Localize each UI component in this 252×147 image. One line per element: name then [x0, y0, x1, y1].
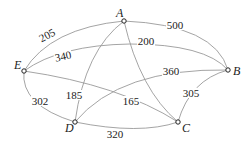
- svg-text:500: 500: [167, 19, 184, 31]
- weight-label-E-D: 302: [31, 95, 49, 107]
- node-label-B: B: [233, 64, 241, 78]
- node-B: [226, 68, 230, 72]
- weight-label-D-B: 360: [162, 65, 180, 77]
- edge-D-C: [75, 122, 178, 129]
- node-C: [176, 120, 180, 124]
- node-label-D: D: [64, 121, 74, 135]
- node-label-E: E: [13, 58, 22, 72]
- svg-text:360: 360: [163, 65, 180, 77]
- node-label-A: A: [115, 6, 124, 20]
- graph-svg: 205 500 340 200 185 360 165 302 320 305: [0, 0, 252, 147]
- weight-label-E-B: 340: [53, 48, 73, 63]
- weight-label-A-D: 185: [65, 89, 83, 101]
- node-label-C: C: [182, 121, 191, 135]
- svg-text:340: 340: [54, 48, 73, 63]
- svg-text:185: 185: [66, 89, 83, 101]
- weight-label-A-B: 500: [166, 19, 184, 31]
- weight-label-A-C: 200: [137, 35, 155, 47]
- weighted-graph-diagram: 205 500 340 200 185 360 165 302 320 305: [0, 0, 252, 147]
- weight-label-D-C: 320: [106, 128, 124, 140]
- svg-text:320: 320: [107, 128, 124, 140]
- weight-label-E-C: 165: [122, 95, 140, 107]
- edge-D-B: [75, 70, 228, 122]
- svg-text:305: 305: [183, 87, 200, 99]
- svg-text:200: 200: [138, 35, 155, 47]
- edge-A-D: [75, 21, 124, 122]
- edge-A-E: [24, 21, 124, 71]
- svg-text:165: 165: [123, 95, 140, 107]
- svg-text:302: 302: [32, 95, 49, 107]
- weight-label-C-B: 305: [182, 87, 200, 99]
- node-E: [22, 69, 26, 73]
